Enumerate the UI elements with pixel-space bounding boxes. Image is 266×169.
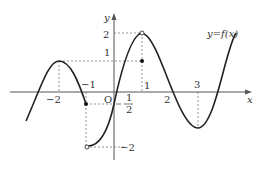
middle-branch [88,33,142,146]
open-point-neg1-neg2 [85,145,89,149]
x-tick-neg2: −2 [46,94,61,105]
y-tick-neg2: −2 [120,142,135,153]
function-graph: y x y=f(x) O 2 1 −2 −2 −1 1 2 3 1 2 [0,0,266,169]
svg-text:1: 1 [126,92,132,103]
y-tick-2: 2 [103,29,109,40]
right-branch [144,33,236,128]
x-axis-label: x [247,94,253,105]
x-tick-neg1: −1 [81,79,96,90]
left-branch [26,61,86,121]
x-tick-1: 1 [144,80,150,91]
origin-label: O [104,94,112,105]
x-tick-3: 3 [194,79,200,90]
open-point-1-2 [140,31,144,35]
y-axis-arrow-icon [112,13,117,20]
function-label: y=f(x) [206,28,238,39]
x-tick-2: 2 [164,94,170,105]
closed-point-1-1 [140,59,144,63]
y-axis-label: y [103,12,110,23]
y-tick-neg-half: 1 2 [116,92,133,115]
curve [26,33,236,146]
closed-point-neg1-half [84,102,88,106]
y-tick-1: 1 [104,47,110,58]
svg-text:2: 2 [126,104,132,115]
